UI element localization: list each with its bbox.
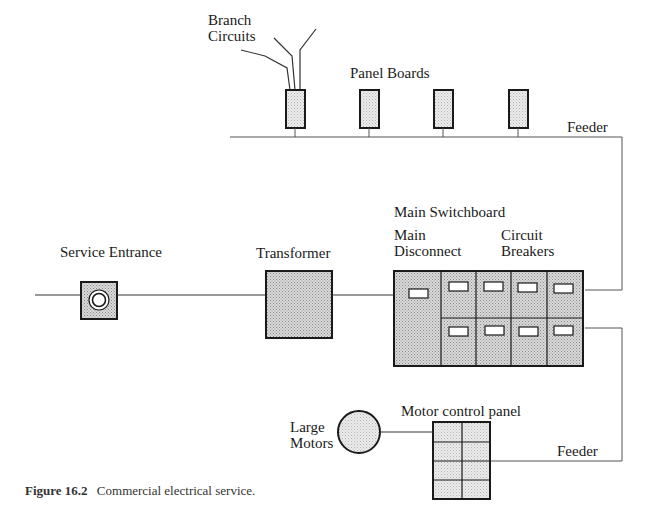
figure-caption: Figure 16.2 Commercial electrical servic… (25, 483, 255, 498)
svg-text:Large: Large (290, 419, 325, 435)
panel-board-4 (509, 90, 528, 128)
branch-wire-3 (300, 29, 316, 90)
svg-text:Disconnect: Disconnect (394, 243, 462, 259)
motor-control-panel (433, 422, 490, 499)
branch-wire-2 (274, 38, 295, 90)
main-switchboard (394, 271, 583, 366)
transformer (266, 271, 332, 338)
feeder-bottom-label: Feeder (557, 443, 598, 459)
main-disconnect-switch (409, 289, 428, 298)
panel-boards-label: Panel Boards (350, 65, 430, 81)
main-switchboard-label: Main Switchboard (394, 204, 506, 220)
svg-text:Circuit: Circuit (501, 227, 543, 243)
service-entrance-label: Service Entrance (60, 244, 162, 260)
svg-text:Breakers: Breakers (501, 243, 554, 259)
circuit-breaker (485, 326, 504, 335)
large-motors-label: Large Motors (290, 419, 334, 451)
motor-control-panel-label: Motor control panel (401, 403, 521, 419)
circuit-breaker (484, 282, 503, 291)
caption-label: Figure 16.2 (25, 483, 88, 498)
svg-text:Main: Main (394, 227, 426, 243)
circuit-breaker (449, 327, 468, 336)
svg-text:Motors: Motors (290, 435, 334, 451)
panel-board-3 (434, 90, 453, 128)
circuit-breaker (518, 283, 537, 292)
circuit-breaker (519, 327, 538, 336)
panel-boards (286, 90, 528, 137)
circuit-breakers-label: Circuit Breakers (501, 227, 554, 259)
caption-text: Commercial electrical service. (97, 483, 255, 498)
circuit-breaker (554, 284, 573, 293)
svg-text:Figure 16.2 Commercial e: Figure 16.2 Commercial electrical servic… (25, 483, 255, 498)
circuit-breaker (554, 326, 573, 335)
svg-text:Circuits: Circuits (208, 28, 256, 44)
service-entrance (81, 282, 117, 319)
panel-board-1 (286, 90, 305, 128)
main-disconnect-label: Main Disconnect (394, 227, 462, 259)
transformer-label: Transformer (256, 245, 330, 261)
commercial-electrical-service-diagram: Branch Circuits Panel Boards Feeder Serv… (0, 0, 670, 529)
panel-board-2 (360, 90, 379, 128)
circuit-breaker (449, 282, 468, 291)
svg-text:Branch: Branch (208, 12, 252, 28)
branch-circuits-label: Branch Circuits (208, 12, 256, 44)
large-motor-icon (338, 411, 380, 453)
branch-wire-1 (241, 50, 290, 90)
feeder-top-label: Feeder (567, 119, 608, 135)
